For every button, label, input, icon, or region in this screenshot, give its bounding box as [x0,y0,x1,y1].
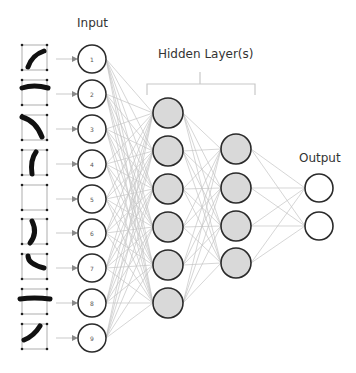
svg-text:6: 6 [90,230,94,237]
input-image-1 [21,44,49,72]
hidden1-node-4 [153,212,183,242]
hidden2-node-4 [221,248,251,278]
hidden2-node-3 [221,211,251,241]
input-node-3: 3 [78,115,106,143]
input-layer-label: Input [77,16,108,30]
hidden2-node-2 [221,173,251,203]
input-node-8: 8 [78,289,106,317]
input-node-2: 2 [78,80,106,108]
hidden1-node-5 [153,250,183,280]
input-node-9: 9 [78,324,106,352]
hidden1-node-3 [153,174,183,204]
hidden1-node-2 [153,136,183,166]
input-arrows [56,56,78,341]
input-image-3 [21,114,49,142]
input-image-7 [21,253,49,281]
output-node-2 [305,212,333,240]
input-node-6: 6 [78,219,106,247]
svg-text:5: 5 [90,196,94,203]
svg-text:9: 9 [90,335,94,342]
connection-edges [106,59,305,338]
hidden1-node-6 [153,288,183,318]
svg-text:4: 4 [90,161,94,168]
output-layer-label: Output [299,151,341,165]
input-image-8 [20,288,50,316]
input-image-4 [21,149,49,177]
svg-text:1: 1 [90,56,94,63]
input-node-5: 5 [78,185,106,213]
hidden2-node-1 [221,134,251,164]
hidden-layer-label: Hidden Layer(s) [158,47,253,61]
input-image-5 [21,184,49,212]
svg-text:7: 7 [90,265,94,272]
svg-text:2: 2 [90,91,94,98]
svg-text:3: 3 [90,126,94,133]
input-image-9 [21,323,49,351]
output-node-1 [305,174,333,202]
input-node-7: 7 [78,254,106,282]
input-image-2 [21,79,49,107]
input-node-1: 1 [78,45,106,73]
hidden1-node-1 [153,98,183,128]
hidden-layer-brace [147,72,255,95]
input-node-4: 4 [78,150,106,178]
svg-text:8: 8 [90,300,94,307]
input-image-6 [21,218,49,246]
input-image-tiles [20,44,50,351]
